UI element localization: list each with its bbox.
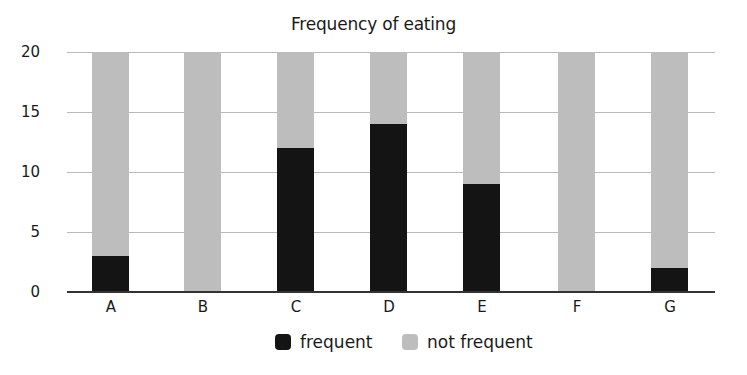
x-tick-e: E — [462, 298, 502, 316]
x-tick-f: F — [557, 298, 597, 316]
legend-item-not-frequent: not frequent — [402, 332, 533, 352]
legend-swatch-not-frequent — [402, 334, 418, 350]
bar-e — [463, 52, 500, 292]
y-tick-0: 0 — [0, 283, 40, 301]
legend-item-frequent: frequent — [275, 332, 373, 352]
x-tick-d: D — [369, 298, 409, 316]
bar-b — [184, 52, 221, 292]
bar-segment-frequent — [651, 268, 688, 292]
x-tick-a: A — [91, 298, 131, 316]
y-tick-15: 15 — [0, 103, 40, 121]
bar-segment-not-frequent — [184, 52, 221, 292]
x-tick-c: C — [276, 298, 316, 316]
x-tick-g: G — [650, 298, 690, 316]
bar-segment-frequent — [370, 124, 407, 292]
legend-label-frequent: frequent — [300, 332, 373, 352]
bar-segment-not-frequent — [92, 52, 129, 256]
bar-segment-not-frequent — [370, 52, 407, 124]
bar-a — [92, 52, 129, 292]
legend: frequent not frequent — [0, 332, 747, 356]
x-tick-b: B — [183, 298, 223, 316]
bar-segment-not-frequent — [463, 52, 500, 184]
y-tick-20: 20 — [0, 43, 40, 61]
bar-c — [277, 52, 314, 292]
y-tick-10: 10 — [0, 163, 40, 181]
bar-segment-frequent — [92, 256, 129, 292]
y-tick-5: 5 — [0, 223, 40, 241]
bar-g — [651, 52, 688, 292]
bar-d — [370, 52, 407, 292]
bar-segment-frequent — [277, 148, 314, 292]
chart-title: Frequency of eating — [0, 14, 747, 34]
bar-segment-not-frequent — [651, 52, 688, 268]
x-axis-line — [67, 291, 715, 293]
bar-segment-frequent — [463, 184, 500, 292]
legend-swatch-frequent — [275, 334, 291, 350]
bar-f — [558, 52, 595, 292]
bar-segment-not-frequent — [558, 52, 595, 292]
bar-segment-not-frequent — [277, 52, 314, 148]
legend-label-not-frequent: not frequent — [427, 332, 533, 352]
